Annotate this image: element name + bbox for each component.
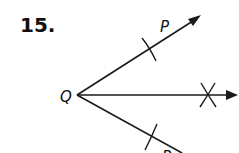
problem-number: 15. — [20, 13, 55, 37]
arrowhead-icon — [188, 15, 201, 26]
angle-bisector-diagram: 15. P Q R — [0, 0, 239, 153]
label-p: P — [160, 18, 170, 36]
ray-qr — [77, 95, 182, 153]
compass-arc-on-qr — [145, 124, 157, 150]
ray-qp — [77, 15, 201, 95]
label-q: Q — [60, 88, 72, 106]
label-r: R — [162, 148, 172, 153]
arrowhead-icon — [226, 90, 238, 100]
bisector-ray — [77, 90, 238, 100]
